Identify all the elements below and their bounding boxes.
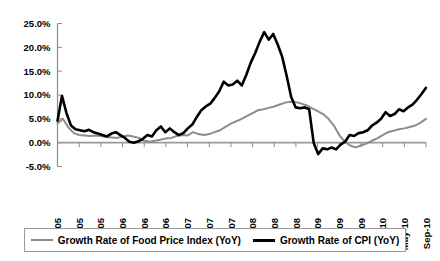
line-chart-plot: -5.0%0.0%5.0%10.0%15.0%20.0%25.0% Jan-05… (0, 0, 440, 261)
legend-item-food: Growth Rate of Food Price Index (YoY) (25, 235, 247, 246)
legend-swatch-cpi-icon (253, 239, 275, 242)
legend-swatch-food-icon (31, 239, 53, 241)
y-axis-tick-label: 10.0% (24, 89, 51, 100)
legend-item-cpi: Growth Rate of CPI (YoY) (247, 235, 405, 246)
legend-label-food: Growth Rate of Food Price Index (YoY) (58, 235, 241, 246)
legend-label-cpi: Growth Rate of CPI (YoY) (280, 235, 399, 246)
y-axis-tick-label: 15.0% (24, 66, 51, 77)
y-axis-tick-label: 0.0% (29, 137, 51, 148)
y-axis-tick-label: -5.0% (26, 161, 51, 172)
y-axis-tick-label: 5.0% (29, 113, 51, 124)
series-line-food-price-index (58, 102, 427, 148)
chart-container: -5.0%0.0%5.0%10.0%15.0%20.0%25.0% Jan-05… (0, 0, 440, 261)
y-axis-tick-label: 20.0% (24, 42, 51, 53)
y-axis-tick-label: 25.0% (24, 18, 51, 29)
y-axis-tick-labels: -5.0%0.0%5.0%10.0%15.0%20.0%25.0% (24, 18, 51, 172)
series-line-cpi (58, 32, 427, 154)
x-axis-tick-label: Sep-10 (421, 218, 432, 249)
data-series-group (58, 32, 427, 154)
chart-legend: Growth Rate of Food Price Index (YoY) Gr… (24, 228, 406, 252)
